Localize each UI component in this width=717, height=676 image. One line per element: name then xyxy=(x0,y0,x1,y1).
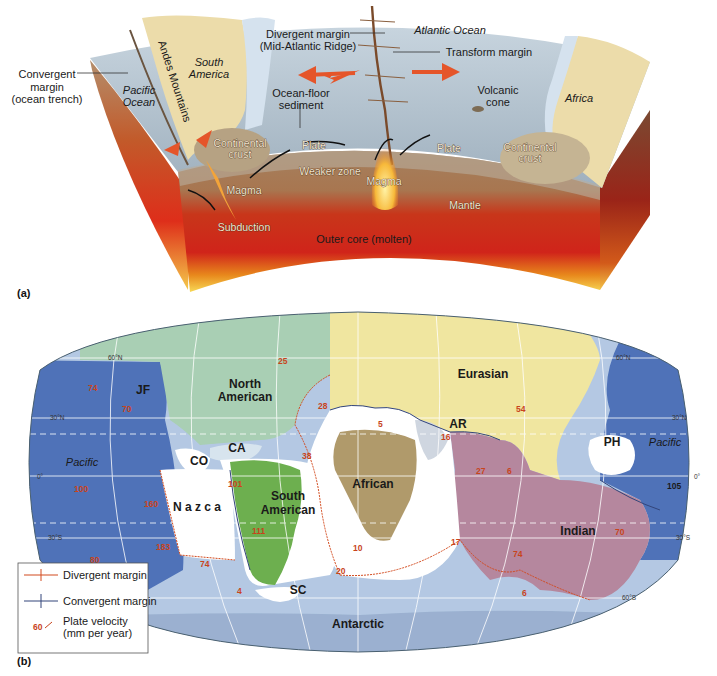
lat-60n-left: 60°N xyxy=(108,354,123,361)
label-ocean-floor-sediment-2: sediment xyxy=(279,99,324,111)
panel-b-tag: (b) xyxy=(17,655,31,667)
panel-a-cross-section: Convergent margin (ocean trench) Pacific… xyxy=(12,6,650,299)
label-magma-left: Magma xyxy=(226,184,261,196)
plate-tectonics-figure: Convergent margin (ocean trench) Pacific… xyxy=(0,0,717,676)
label-divergent-margin-2: (Mid-Atlantic Ridge) xyxy=(260,40,357,52)
label-convergent-margin-3: (ocean trench) xyxy=(12,93,83,105)
velocity-105: 105 xyxy=(667,481,681,491)
plate-label-south-american-2: American xyxy=(261,503,316,517)
lat-60s-right: 60°S xyxy=(622,594,637,601)
lat-30n-left: 30°N xyxy=(50,414,65,421)
plate-label-caribbean: CA xyxy=(228,441,246,455)
panel-b-world-map: 60°N 30°N 0° 30°S 60°N 30°N 0° 30°S 60°S… xyxy=(0,300,717,667)
velocity-54: 54 xyxy=(516,404,526,414)
label-atlantic-ocean: Atlantic Ocean xyxy=(413,24,486,36)
velocity-28: 28 xyxy=(318,401,328,411)
lat-eq-left: 0° xyxy=(37,473,44,480)
velocity-17: 17 xyxy=(451,537,461,547)
velocity-6-a: 6 xyxy=(507,466,512,476)
lat-30s-right: 30°S xyxy=(676,534,691,541)
plate-label-eurasian: Eurasian xyxy=(458,367,509,381)
label-volcanic-cone-1: Volcanic xyxy=(478,84,519,96)
velocity-70-b: 70 xyxy=(615,527,625,537)
plate-label-pacific-left: Pacific xyxy=(66,456,99,468)
panel-a-tag: (a) xyxy=(17,287,31,299)
lat-eq-right: 0° xyxy=(694,473,701,480)
velocity-6-b: 6 xyxy=(522,588,527,598)
velocity-25: 25 xyxy=(278,356,288,366)
label-transform-margin: Transform margin xyxy=(446,46,532,58)
velocity-100: 100 xyxy=(74,484,88,494)
plate-label-juan-de-fuca: JF xyxy=(136,383,150,397)
velocity-5: 5 xyxy=(378,419,383,429)
plate-label-pacific-right: Pacific xyxy=(649,436,682,448)
legend-velocity-label-2: (mm per year) xyxy=(63,627,132,639)
velocity-101: 101 xyxy=(228,479,242,489)
plate-label-antarctic: Antarctic xyxy=(332,617,384,631)
plate-label-scotia: SC xyxy=(290,583,307,597)
label-outer-core: Outer core (molten) xyxy=(316,233,411,245)
velocity-38: 38 xyxy=(302,451,312,461)
label-plate-left: Plate xyxy=(302,139,326,151)
velocity-16: 16 xyxy=(441,432,451,442)
plate-label-cocos: CO xyxy=(190,454,208,468)
label-magma-center: Magma xyxy=(366,175,401,187)
velocity-74-c: 74 xyxy=(513,549,523,559)
label-ocean-floor-sediment-1: Ocean-floor xyxy=(272,87,330,99)
plate-label-philippine: PH xyxy=(604,435,621,449)
map-legend: Divergent margin Convergent margin 60 Pl… xyxy=(18,563,157,653)
plate-label-south-american-1: South xyxy=(271,489,305,503)
label-volcanic-cone-2: cone xyxy=(486,96,510,108)
label-convergent-margin-2: margin xyxy=(30,81,64,93)
label-south-america-2: America xyxy=(188,68,229,80)
plate-label-indian: Indian xyxy=(560,524,595,538)
continental-crust-right xyxy=(500,132,590,184)
legend-divergent-label: Divergent margin xyxy=(63,569,147,581)
velocity-4: 4 xyxy=(237,586,242,596)
lat-60n-right: 60°N xyxy=(616,354,631,361)
plate-label-nazca: N a z c a xyxy=(173,500,221,514)
label-subduction: Subduction xyxy=(218,221,271,233)
legend-convergent-label: Convergent margin xyxy=(63,595,157,607)
velocity-160: 160 xyxy=(144,499,158,509)
label-pacific-ocean-1: Pacific xyxy=(123,84,156,96)
velocity-183: 183 xyxy=(156,542,170,552)
label-convergent-margin-1: Convergent xyxy=(19,68,76,80)
plate-label-north-american-2: American xyxy=(218,390,273,404)
velocity-70-a: 70 xyxy=(122,404,132,414)
velocity-27: 27 xyxy=(476,466,486,476)
volcanic-cone xyxy=(472,106,484,112)
label-plate-right: Plate xyxy=(437,142,461,154)
velocity-74-b: 74 xyxy=(200,559,210,569)
label-continental-crust-right-2: crust xyxy=(519,152,542,164)
legend-velocity-label-1: Plate velocity xyxy=(63,615,128,627)
lat-30s-left: 30°S xyxy=(48,534,63,541)
velocity-111: 111 xyxy=(252,526,266,536)
plate-label-north-american-1: North xyxy=(229,377,261,391)
label-weaker-zone: Weaker zone xyxy=(299,165,361,177)
label-south-america-1: South xyxy=(195,56,224,68)
plate-label-arabian: AR xyxy=(449,417,467,431)
lat-30n-right: 30°N xyxy=(672,414,687,421)
velocity-20: 20 xyxy=(336,566,346,576)
plate-label-african: African xyxy=(352,477,393,491)
label-continental-crust-left-2: crust xyxy=(229,148,252,160)
label-divergent-margin-1: Divergent margin xyxy=(266,28,350,40)
label-africa: Africa xyxy=(564,92,593,104)
velocity-74-a: 74 xyxy=(88,383,98,393)
label-pacific-ocean-2: Ocean xyxy=(123,96,155,108)
velocity-10: 10 xyxy=(353,543,363,553)
legend-velocity-sample: 60 xyxy=(33,622,43,632)
label-mantle: Mantle xyxy=(449,199,481,211)
